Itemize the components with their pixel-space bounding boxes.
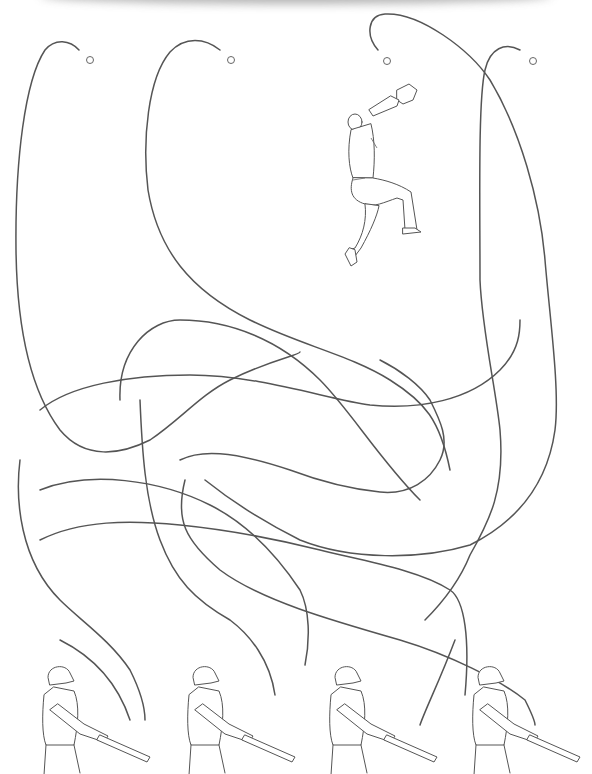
maze-path-3[interactable]	[205, 14, 556, 556]
baseball-icon	[87, 57, 94, 64]
maze-path-segment[interactable]	[180, 360, 444, 492]
batter-figure-icon	[43, 667, 150, 774]
baseball-icon	[530, 58, 537, 65]
batter-figure-icon	[473, 667, 580, 774]
fielder-figure-icon	[345, 84, 421, 266]
baseball-icon	[384, 58, 391, 65]
maze-path-segment[interactable]	[40, 479, 308, 665]
maze-path-1[interactable]	[16, 42, 300, 452]
batter-figure-icon	[188, 667, 295, 774]
maze-path-segment[interactable]	[40, 522, 467, 695]
maze-path-4[interactable]	[425, 47, 520, 620]
maze-path-segment[interactable]	[18, 460, 145, 720]
batter-figure-icon	[330, 667, 437, 774]
maze-path-segment[interactable]	[120, 320, 420, 500]
maze-path-segment[interactable]	[140, 400, 275, 695]
maze-canvas	[0, 0, 592, 774]
baseball-icon	[228, 57, 235, 64]
